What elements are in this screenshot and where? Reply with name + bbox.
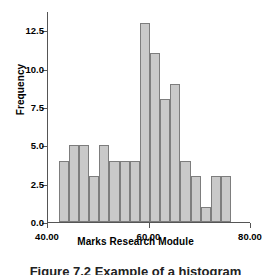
histogram-bar	[211, 176, 221, 222]
y-tick-label: 2.5	[31, 178, 44, 191]
histogram-bar	[170, 84, 180, 222]
x-tick-mark	[47, 223, 48, 228]
histogram-bar	[180, 161, 190, 222]
histogram-bar	[160, 99, 170, 222]
y-tick-label: 0.0	[31, 216, 44, 229]
histogram-bar	[221, 176, 231, 222]
histogram-bar	[109, 161, 119, 222]
histogram-bar	[79, 145, 89, 222]
x-tick-mark	[149, 223, 150, 228]
histogram-figure: Frequency 0.02.55.07.510.012.5 40.0060.0…	[0, 0, 271, 275]
histogram-bar	[99, 145, 109, 222]
plot-area: 0.02.55.07.510.012.5 40.0060.0080.00	[47, 12, 250, 223]
histogram-bar	[130, 161, 140, 222]
histogram-bars	[47, 12, 250, 223]
x-tick-mark	[250, 223, 251, 228]
histogram-bar	[140, 23, 150, 222]
y-tick-label: 7.5	[31, 101, 44, 114]
histogram-bar	[120, 161, 130, 222]
histogram-bar	[201, 207, 211, 222]
histogram-bar	[191, 176, 201, 222]
histogram-bar	[59, 161, 69, 222]
histogram-bar	[69, 145, 79, 222]
y-tick-label: 5.0	[31, 139, 44, 152]
figure-caption: Figure 7.2 Example of a histogram	[0, 264, 271, 275]
histogram-bar	[89, 176, 99, 222]
y-tick-label: 12.5	[26, 24, 45, 37]
histogram-bar	[150, 53, 160, 222]
x-axis-title: Marks Research Module	[0, 236, 271, 247]
y-axis-title: Frequency	[15, 30, 26, 150]
y-tick-label: 10.0	[26, 63, 45, 76]
